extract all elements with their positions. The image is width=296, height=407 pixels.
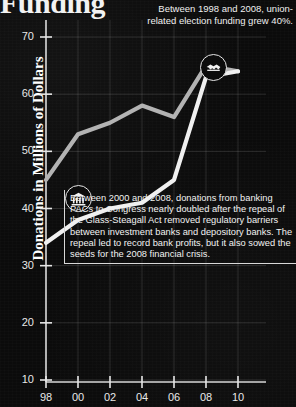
handshake-icon — [200, 54, 227, 81]
y-tick-label: 40 — [0, 202, 34, 214]
y-tick-label: 70 — [0, 30, 34, 42]
x-tick-label: 04 — [129, 391, 155, 403]
banking-annotation-text: Between 2000 and 2008, donations from ba… — [64, 190, 296, 264]
x-tick-label: 10 — [225, 391, 251, 403]
handshake-glyph — [206, 61, 221, 74]
x-tick-label: 08 — [193, 391, 219, 403]
union-annotation-text: Between 1998 and 2008, union-related ele… — [141, 3, 293, 26]
x-tick-label: 02 — [97, 391, 123, 403]
x-tick-label: 00 — [65, 391, 91, 403]
y-tick-label: 10 — [0, 373, 34, 385]
y-tick-label: 50 — [0, 144, 34, 156]
y-tick-label: 60 — [0, 87, 34, 99]
y-tick-label: 20 — [0, 316, 34, 328]
x-tick-label: 98 — [33, 391, 59, 403]
y-tick-label: 30 — [0, 259, 34, 271]
x-tick-label: 06 — [161, 391, 187, 403]
